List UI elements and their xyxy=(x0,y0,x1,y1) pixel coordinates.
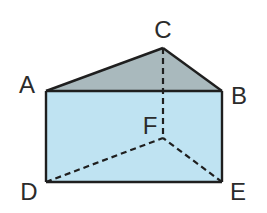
vertex-label-f: F xyxy=(143,112,158,139)
vertex-label-d: D xyxy=(20,178,37,205)
vertex-label-e: E xyxy=(230,178,246,205)
vertex-label-b: B xyxy=(231,82,247,109)
front-face-abed xyxy=(46,91,222,182)
vertex-label-a: A xyxy=(19,71,35,98)
triangular-prism-diagram: C A B F D E xyxy=(0,0,267,213)
top-face-acb xyxy=(46,48,222,91)
vertex-label-c: C xyxy=(154,16,171,43)
